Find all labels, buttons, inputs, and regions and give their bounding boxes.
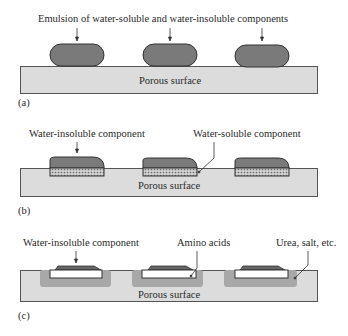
diagram-shapes <box>0 0 348 336</box>
droplet-1 <box>50 44 104 66</box>
insoluble-films-c <box>50 266 288 278</box>
emulsion-droplets <box>50 44 289 67</box>
droplet-3 <box>235 45 289 67</box>
droplets-b <box>50 157 289 176</box>
arrows-a <box>76 28 264 41</box>
droplet-2 <box>143 44 197 66</box>
